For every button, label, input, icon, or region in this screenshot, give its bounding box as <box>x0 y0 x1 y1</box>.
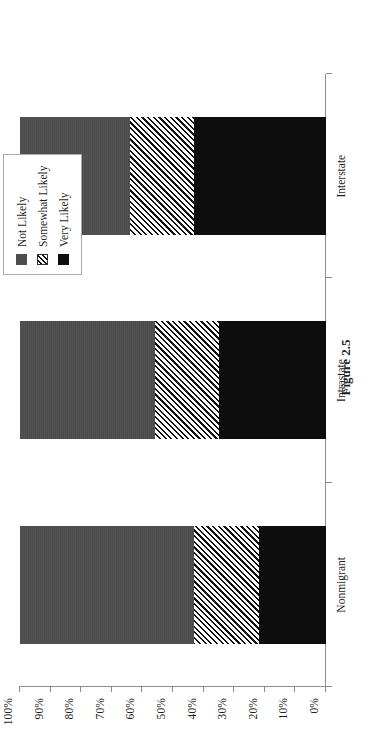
axis-tick: 20% <box>264 686 265 692</box>
axis-tick: 70% <box>111 686 112 692</box>
category-tick <box>326 73 332 74</box>
legend-item[interactable]: Not Likely <box>11 166 32 265</box>
bar-segment-somewhat-likely[interactable] <box>155 322 219 440</box>
bar-segment-very-likely[interactable] <box>259 526 326 644</box>
bar-segment-not-likely[interactable] <box>20 526 194 644</box>
legend-item-label: Very Likely <box>58 192 70 247</box>
axis-tick-label: 80% <box>63 698 75 719</box>
axis-tick-label: 10% <box>277 698 289 719</box>
solid-black-swatch <box>58 254 69 265</box>
solid-gray-swatch <box>16 254 27 265</box>
legend: Not LikelySomewhat LikelyVery Likely <box>3 154 82 275</box>
axis-tick-label: 20% <box>247 698 259 719</box>
bar-segment-somewhat-likely[interactable] <box>194 526 258 644</box>
category-tick <box>326 277 332 278</box>
axis-tick-label: 30% <box>216 698 228 719</box>
axis-tick: 90% <box>50 686 51 692</box>
axis-tick-label: 50% <box>155 698 167 719</box>
axis-tick: 30% <box>233 686 234 692</box>
bar-group[interactable]: Intrastate <box>20 322 326 440</box>
category-tick <box>326 482 332 483</box>
bar-segment-not-likely[interactable] <box>20 322 155 440</box>
plot-area: 0%10%20%30%40%50%60%70%80%90%100% Nonmig… <box>20 74 326 687</box>
figure-stage: 0%10%20%30%40%50%60%70%80%90%100% Nonmig… <box>0 0 373 735</box>
axis-tick-label: 60% <box>124 698 136 719</box>
axis-tick: 60% <box>141 686 142 692</box>
bar-segment-very-likely[interactable] <box>194 117 326 235</box>
axis-tick: 10% <box>294 686 295 692</box>
axis-tick-label: 70% <box>94 698 106 719</box>
diagonal-hatch-swatch <box>37 254 48 265</box>
legend-item-label: Somewhat Likely <box>37 166 49 247</box>
axis-tick-label: 90% <box>33 698 45 719</box>
axis-tick: 80% <box>80 686 81 692</box>
axis-tick-label: 0% <box>308 698 320 714</box>
bar-group[interactable]: Nonmigrant <box>20 526 326 644</box>
figure-caption: Figure 2.5 <box>338 0 354 735</box>
legend-item-label: Not Likely <box>16 197 28 247</box>
axis-tick: 100% <box>19 686 20 692</box>
axis-tick-label: 40% <box>186 698 198 719</box>
legend-item[interactable]: Very Likely <box>53 166 74 265</box>
axis-tick: 50% <box>172 686 173 692</box>
value-axis-line <box>20 686 326 687</box>
bar-segment-somewhat-likely[interactable] <box>130 117 194 235</box>
legend-item[interactable]: Somewhat Likely <box>32 166 53 265</box>
axis-tick-label: 100% <box>2 698 14 725</box>
bar-segment-very-likely[interactable] <box>219 322 326 440</box>
axis-tick: 40% <box>203 686 204 692</box>
category-tick <box>326 686 332 687</box>
